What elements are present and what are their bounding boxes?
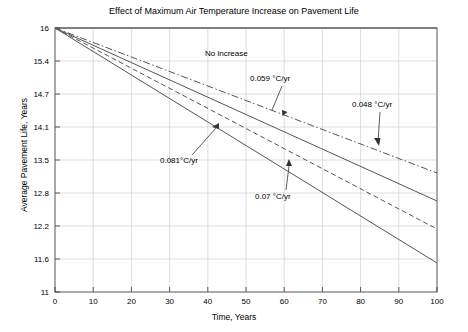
chart-container: Effect of Maximum Air Temperature Increa…: [0, 0, 468, 332]
ytick-label: 11: [41, 288, 50, 297]
annotation-no-increase: No increase: [205, 49, 248, 58]
yaxis-tick-labels: 11 11.6 12.2 12.8 13.5 14.1 14.7 15.4 16: [33, 24, 49, 297]
annotation-0048: 0.048 °C/yr: [352, 100, 392, 109]
ytick-label: 13.5: [33, 156, 49, 165]
xaxis-tick-labels: 0 10 20 30 40 50 60 70 80 90 100: [53, 297, 444, 306]
ytick-label: 12.2: [33, 222, 49, 231]
annotation-0081: 0.081°C/yr: [160, 156, 198, 165]
xtick-label: 10: [89, 297, 98, 306]
chart-plot: 0 10 20 30 40 50 60 70 80 90 100 11 11.6…: [0, 0, 468, 332]
xtick-label: 80: [356, 297, 365, 306]
xtick-label: 50: [242, 297, 251, 306]
yaxis-title: Average Pavement Life, Years: [19, 85, 29, 225]
ytick-label: 16: [40, 24, 49, 33]
xtick-label: 70: [318, 297, 327, 306]
annotation-0059: 0.059 °C/yr: [250, 74, 290, 83]
ytick-label: 12.8: [33, 189, 49, 198]
xtick-label: 40: [203, 297, 212, 306]
xtick-label: 90: [394, 297, 403, 306]
xaxis-title: Time, Years: [0, 312, 468, 322]
ytick-label: 14.1: [33, 123, 49, 132]
ytick-label: 14.7: [33, 90, 49, 99]
xtick-label: 0: [53, 297, 58, 306]
xtick-label: 30: [165, 297, 174, 306]
ytick-label: 11.6: [34, 255, 50, 264]
xtick-label: 60: [280, 297, 289, 306]
xtick-label: 20: [127, 297, 136, 306]
annotation-007: 0.07 °C/yr: [255, 192, 291, 201]
xtick-label: 100: [430, 297, 444, 306]
ytick-label: 15.4: [33, 57, 49, 66]
